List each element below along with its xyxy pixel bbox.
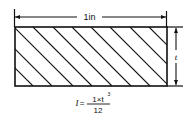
width-label: 1in [83,12,95,22]
hatch-lines [0,27,193,86]
moment-of-inertia-formula: I = 1×t 3 12 [75,91,111,115]
formula-exponent: 3 [108,91,111,97]
width-dimension: 1in [15,9,167,27]
beam-cross-section-diagram: 1in t I = 1×t 3 12 [0,0,193,121]
formula-equals: = [80,99,85,108]
formula-numerator: 1×t [92,95,104,104]
height-dimension: t [167,27,183,86]
section-outline [15,27,167,86]
height-label: t [175,52,178,62]
hatched-section [0,27,193,86]
formula-denominator: 12 [94,106,103,115]
